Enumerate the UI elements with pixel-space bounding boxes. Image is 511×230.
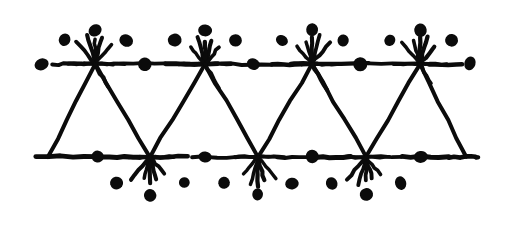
- top-star-ray: [291, 63, 312, 64]
- top-star-ray: [420, 63, 447, 64]
- top-star-ray: [179, 64, 205, 65]
- bottom-star-ray: [124, 157, 150, 158]
- bottom-rail-segment: [449, 156, 476, 157]
- bottom-star-ray: [150, 157, 151, 183]
- bottom-star-ray: [366, 157, 389, 158]
- bottom-star-ray: [338, 156, 366, 157]
- ornament-figure: Repeating triangular zigzag ornament wit…: [0, 0, 511, 230]
- bottom-rail-segment: [36, 156, 97, 157]
- bottom-star-ray: [257, 157, 258, 187]
- top-star-ray: [394, 64, 420, 65]
- top-star-ray: [205, 42, 206, 64]
- pattern-canvas: [0, 0, 511, 230]
- bottom-star-ray: [150, 156, 173, 158]
- bottom-star-ray: [235, 156, 258, 157]
- top-star-ray: [95, 64, 125, 65]
- top-star-ray: [68, 63, 95, 64]
- top-star-ray: [312, 63, 337, 64]
- top-star-ray: [205, 63, 231, 64]
- bottom-star-ray: [258, 156, 284, 157]
